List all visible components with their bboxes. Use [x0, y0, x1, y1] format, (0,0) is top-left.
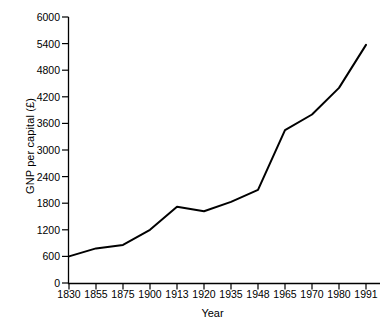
data-line-series	[69, 45, 366, 257]
x-axis-title: Year	[0, 307, 387, 319]
chart-container: GNP per capital (£) 6000 5400 4800 4200 …	[0, 0, 387, 324]
x-axis-tick-labels: 1830 1855 1875 1900 1913 1920 1935 1948 …	[0, 289, 387, 305]
y-axis-ticks	[62, 17, 69, 283]
plot-area	[0, 0, 387, 324]
x-tick-label: 1991	[346, 289, 386, 300]
x-axis-title-text: Year	[201, 307, 223, 319]
axis-lines	[69, 17, 381, 284]
